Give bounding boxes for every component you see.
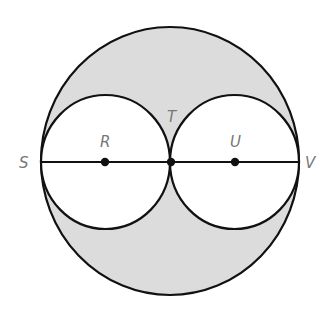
point-t-dot	[167, 158, 175, 166]
point-u-dot	[231, 158, 239, 166]
geometry-diagram: S R T U V	[0, 0, 330, 310]
label-s: S	[19, 154, 29, 172]
label-r: R	[100, 133, 110, 151]
point-r-dot	[101, 158, 109, 166]
label-v: V	[305, 154, 317, 172]
label-u: U	[230, 133, 241, 151]
